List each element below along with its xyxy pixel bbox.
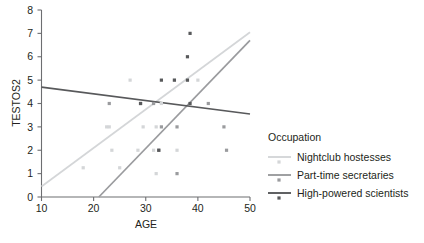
legend-swatch-marker — [277, 160, 280, 163]
data-point — [136, 149, 139, 152]
data-point — [157, 149, 160, 152]
y-tick-label: 2 — [27, 144, 33, 156]
legend-title: Occupation — [268, 131, 321, 143]
data-point — [186, 55, 189, 58]
y-tick-label: 6 — [27, 50, 33, 62]
data-point — [142, 125, 145, 128]
data-point — [155, 172, 158, 175]
data-point — [139, 102, 142, 105]
x-tick-label: 40 — [192, 202, 204, 214]
chart-background — [0, 0, 424, 243]
x-tick-label: 10 — [36, 202, 48, 214]
y-tick-label: 8 — [27, 4, 33, 16]
data-point — [108, 125, 111, 128]
x-axis-title: AGE — [135, 218, 157, 230]
x-tick-label: 30 — [140, 202, 152, 214]
data-point — [152, 149, 155, 152]
y-tick-label: 4 — [27, 97, 33, 109]
data-point — [155, 125, 158, 128]
data-point — [173, 79, 176, 82]
scatter-chart-figure: 012345678 1020304050 TESTOS2 AGE Occupat… — [0, 0, 424, 243]
chart-canvas: 012345678 1020304050 TESTOS2 AGE Occupat… — [0, 0, 424, 243]
data-point — [196, 79, 199, 82]
data-point — [225, 149, 228, 152]
data-point — [108, 102, 111, 105]
y-tick-label: 7 — [27, 27, 33, 39]
y-axis-title: TESTOS2 — [10, 79, 22, 127]
data-point — [175, 172, 178, 175]
legend-entry-label: Part-time secretaries — [297, 169, 394, 181]
y-tick-label: 5 — [27, 74, 33, 86]
data-point — [152, 102, 155, 105]
legend-swatch-marker — [277, 178, 280, 181]
data-point — [188, 32, 191, 35]
y-tick-label: 0 — [27, 191, 33, 203]
y-tick-label: 1 — [27, 167, 33, 179]
data-point — [175, 149, 178, 152]
data-point — [207, 102, 210, 105]
legend-entry-label: High-powered scientists — [297, 187, 408, 199]
data-point — [222, 125, 225, 128]
data-point — [110, 149, 113, 152]
x-tick-label: 20 — [88, 202, 100, 214]
y-tick-label: 3 — [27, 121, 33, 133]
data-point — [188, 102, 191, 105]
x-tick-label: 50 — [244, 202, 256, 214]
legend-entry-label: Nightclub hostesses — [297, 151, 391, 163]
data-point — [118, 166, 121, 169]
data-point — [160, 125, 163, 128]
data-point — [186, 79, 189, 82]
legend-swatch-marker — [277, 196, 280, 199]
data-point — [160, 102, 163, 105]
data-point — [160, 79, 163, 82]
data-point — [175, 125, 178, 128]
data-point — [129, 79, 132, 82]
data-point — [82, 166, 85, 169]
